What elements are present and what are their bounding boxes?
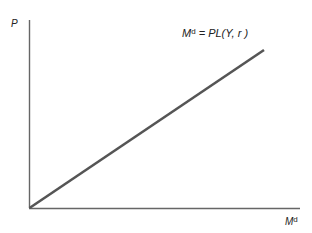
curve-label-rest: = PL(Y, r ) <box>196 27 249 39</box>
money-demand-diagram: P Md = PL(Y, r ) Md <box>0 0 312 233</box>
x-axis-label: Md <box>285 215 298 227</box>
y-axis-label: P <box>11 18 18 29</box>
curve-label: Md = PL(Y, r ) <box>182 27 248 39</box>
money-demand-line <box>30 50 265 208</box>
x-axis-label-sup: d <box>293 215 297 224</box>
